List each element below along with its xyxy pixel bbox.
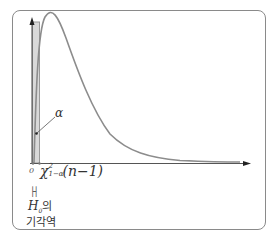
alpha-label: α	[55, 106, 63, 120]
origin-label: 0	[29, 166, 34, 175]
h0-symbol: H	[28, 199, 38, 213]
rejection-region-label: 기각역	[26, 213, 56, 229]
chi-args: (n−1)	[62, 163, 103, 179]
chi-subscript: 1−α	[48, 170, 63, 178]
chi-superscript: 2	[48, 162, 52, 170]
origin-tick	[32, 162, 34, 164]
critical-value-label: χ21−α(n−1)	[40, 163, 103, 179]
rejection-bracket: ├┤	[30, 187, 37, 197]
y-axis-arrow-icon	[30, 17, 35, 25]
h0-label: H0의	[28, 197, 52, 214]
h0-suffix: 의	[42, 200, 52, 213]
x-axis-arrow-icon	[243, 161, 251, 166]
density-curve	[34, 13, 240, 163]
alpha-pointer-dot	[35, 132, 38, 135]
